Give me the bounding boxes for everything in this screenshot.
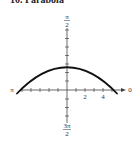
label-zero: 0 [128, 86, 132, 94]
tick-label-4: 4 [101, 93, 105, 101]
polar-plot: π 2 3π 2 π 0 2 4 [0, 0, 137, 141]
arrow-icon [121, 88, 126, 92]
label-pi: π [10, 86, 14, 94]
label-pi-over-2-num: π [65, 13, 69, 21]
label-pi-over-2-den: 2 [65, 21, 69, 29]
label-3pi-over-2-den: 2 [65, 130, 69, 138]
label-3pi-over-2-num: 3π [63, 122, 71, 130]
tick-label-2: 2 [83, 93, 87, 101]
